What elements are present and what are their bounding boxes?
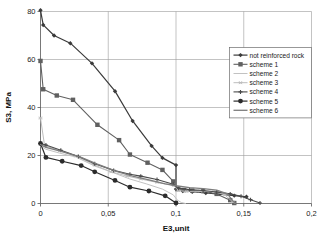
y-axis-title: S3, MPa: [4, 92, 13, 123]
x-tick-label: 0,05: [101, 209, 116, 218]
x-tick-label: 0,15: [236, 209, 251, 218]
legend-label: not reinforced rock: [250, 52, 305, 59]
series-scheme-1: [38, 59, 236, 205]
legend: not reinforced rockscheme 1scheme 2schem…: [230, 48, 312, 118]
data-point-marker: [113, 178, 118, 183]
y-tick-label: 20: [27, 151, 35, 160]
data-point-marker: [160, 168, 164, 172]
series-not-reinforced-rock: [38, 8, 248, 199]
series-line: [41, 144, 236, 203]
legend-label: scheme 2: [250, 70, 279, 77]
data-point-marker: [174, 163, 178, 167]
data-point-marker: [145, 161, 149, 165]
data-point-marker: [238, 99, 243, 104]
data-point-marker: [249, 198, 253, 202]
y-tick-label: 80: [27, 7, 35, 16]
data-point-marker: [155, 178, 159, 182]
x-tick-label: 0,1: [171, 209, 181, 218]
chart-container: 00,050,10,150,2 020406080 E3,unitS3, MPa…: [0, 0, 333, 238]
legend-label: scheme 6: [250, 107, 279, 114]
series-line: [41, 10, 247, 196]
data-point-marker: [38, 59, 42, 63]
data-point-marker: [55, 93, 59, 97]
data-point-marker: [147, 189, 152, 194]
data-point-marker: [92, 169, 97, 174]
data-point-marker: [79, 163, 84, 168]
data-series-group: [38, 8, 262, 205]
data-point-marker: [71, 98, 75, 102]
line-chart: 00,050,10,150,2 020406080 E3,unitS3, MPa…: [0, 0, 333, 238]
data-point-marker: [174, 201, 179, 206]
data-point-marker: [41, 87, 45, 91]
axis-titles: E3,unitS3, MPa: [4, 92, 190, 233]
x-tick-label: 0,2: [306, 209, 316, 218]
legend-label: scheme 3: [250, 79, 279, 86]
data-point-marker: [238, 62, 242, 66]
x-axis-title: E3,unit: [163, 224, 190, 233]
data-point-marker: [95, 123, 99, 127]
data-point-marker: [60, 159, 65, 164]
legend-label: scheme 1: [250, 61, 279, 68]
data-point-marker: [190, 188, 194, 192]
y-tick-label: 0: [31, 199, 35, 208]
y-tick-label: 40: [27, 103, 35, 112]
data-point-marker: [258, 201, 262, 205]
x-tick-label: 0: [38, 209, 42, 218]
y-tick-labels: 020406080: [27, 7, 35, 208]
legend-label: scheme 4: [250, 88, 279, 95]
data-point-marker: [117, 138, 121, 142]
x-tick-labels: 00,050,10,150,2: [38, 209, 316, 218]
series-scheme-6: [41, 144, 236, 203]
legend-label: scheme 5: [250, 98, 279, 105]
data-point-marker: [239, 194, 243, 198]
data-point-marker: [128, 152, 132, 156]
y-tick-label: 60: [27, 55, 35, 64]
data-point-marker: [44, 155, 49, 160]
data-point-marker: [128, 185, 133, 190]
data-point-marker: [163, 193, 168, 198]
